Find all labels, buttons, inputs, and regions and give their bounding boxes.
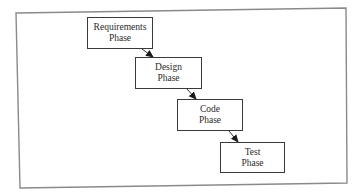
design-phase-label-line1: Design <box>155 62 182 73</box>
test-phase-box: Test Phase <box>220 142 285 173</box>
arrow-design-to-code <box>187 89 196 99</box>
test-phase-label-line2: Phase <box>241 158 263 169</box>
requirements-phase-box: Requirements Phase <box>87 17 153 49</box>
test-phase-label-line1: Test <box>245 147 261 158</box>
code-phase-label-line1: Code <box>200 104 220 115</box>
waterfall-diagram <box>0 0 361 196</box>
diagram-frame <box>16 8 347 188</box>
requirements-phase-label-line1: Requirements <box>94 22 147 33</box>
code-phase-box: Code Phase <box>177 99 243 131</box>
design-phase-label-line2: Phase <box>157 73 179 84</box>
arrow-code-to-test <box>229 131 238 142</box>
arrow-requirements-to-design <box>142 49 153 57</box>
code-phase-label-line2: Phase <box>199 115 221 126</box>
requirements-phase-label-line2: Phase <box>109 33 131 44</box>
design-phase-box: Design Phase <box>135 57 202 89</box>
